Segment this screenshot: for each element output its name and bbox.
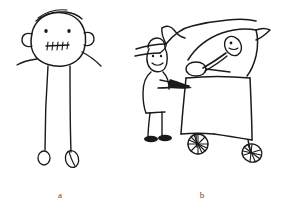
person-mouth (152, 63, 163, 65)
animal-upper-body (188, 29, 258, 76)
right-foot-detail (69, 152, 75, 166)
mouth-tooth-5 (67, 42, 68, 49)
person-face (147, 48, 167, 72)
animal-body-bottom-right (214, 134, 252, 140)
animal-rear-hoof (240, 141, 265, 164)
mouth-tooth-4 (62, 42, 63, 50)
left-foot (38, 151, 50, 165)
person-left-eye (152, 55, 154, 58)
panel-a-caption: a (53, 191, 67, 200)
animal-chest-line (206, 69, 230, 72)
person-hat-crown (148, 38, 165, 48)
person-right-shoe (158, 135, 172, 141)
drawings-canvas (0, 0, 284, 216)
person-left-shoe (144, 136, 158, 142)
rein-wedge (169, 79, 193, 89)
right-arm (82, 52, 101, 66)
panel-b-drawing (135, 19, 270, 164)
panel-a-drawing (17, 10, 101, 169)
person-hat-brim (136, 44, 166, 49)
animal-front-hoof (188, 134, 208, 154)
animal-rear-point (256, 29, 270, 41)
right-eye (67, 29, 70, 33)
person-body-left (143, 72, 151, 113)
mouth-tooth-2 (52, 42, 53, 50)
panel-b-caption: b (195, 191, 209, 200)
animal-back-line (166, 19, 256, 44)
mouth-tooth-3 (57, 42, 58, 50)
oval-detail-mark (229, 48, 238, 50)
left-arm (17, 59, 37, 65)
head-outline (31, 12, 86, 66)
left-leg (45, 66, 48, 150)
mouth-tooth-1 (47, 42, 48, 50)
right-leg (70, 66, 71, 152)
animal-chest-loop (186, 62, 206, 76)
oval-detail-dot-1 (230, 42, 233, 45)
animal-body-top (186, 77, 250, 79)
animal-body-right (250, 78, 252, 140)
figure-container: a b (0, 0, 284, 216)
left-eye (44, 29, 47, 33)
person-right-eye (160, 55, 162, 58)
person-left-leg (148, 113, 150, 137)
